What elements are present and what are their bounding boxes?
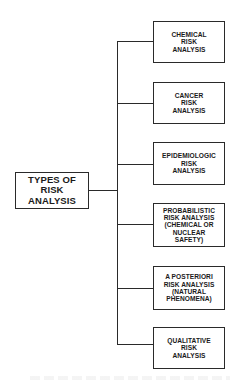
branch-connector-probabilistic <box>117 224 153 225</box>
node-qualitative-risk-analysis: QUALITATIVE RISK ANALYSIS <box>153 327 225 369</box>
node-a-posteriori-risk-analysis: A POSTERIORI RISK ANALYSIS (NATURAL PHEN… <box>153 266 225 310</box>
node-chemical-risk-analysis: CHEMICAL RISK ANALYSIS <box>153 21 225 63</box>
branch-connector-chemical <box>117 41 153 42</box>
branch-connector-epidemiologic <box>117 164 153 165</box>
node-label: CANCER RISK ANALYSIS <box>172 92 205 114</box>
branch-connector-a-posteriori <box>117 288 153 289</box>
branch-connector-cancer <box>117 103 153 104</box>
page-bleed-through-artifact <box>30 376 230 380</box>
branch-connector-qualitative <box>117 344 153 345</box>
node-probabilistic-risk-analysis: PROBABILISTIC RISK ANALYSIS (CHEMICAL OR… <box>153 203 225 247</box>
root-connector <box>89 190 117 191</box>
root-node-types-of-risk-analysis: TYPES OF RISK ANALYSIS <box>15 172 89 209</box>
node-cancer-risk-analysis: CANCER RISK ANALYSIS <box>153 82 225 124</box>
node-label: PROBABILISTIC RISK ANALYSIS (CHEMICAL OR… <box>163 207 215 244</box>
node-label: CHEMICAL RISK ANALYSIS <box>171 31 206 53</box>
node-epidemiologic-risk-analysis: EPIDEMIOLOGIC RISK ANALYSIS <box>153 142 225 185</box>
root-node-label: TYPES OF RISK ANALYSIS <box>28 175 76 207</box>
trunk-line <box>117 41 118 345</box>
node-label: A POSTERIORI RISK ANALYSIS (NATURAL PHEN… <box>164 273 215 303</box>
node-label: QUALITATIVE RISK ANALYSIS <box>167 337 211 359</box>
node-label: EPIDEMIOLOGIC RISK ANALYSIS <box>162 152 216 174</box>
